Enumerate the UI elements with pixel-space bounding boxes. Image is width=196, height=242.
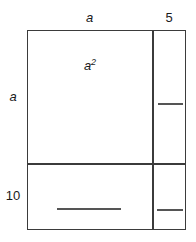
dimension-label-top-a: a: [27, 11, 152, 24]
answer-line-top-right[interactable]: [158, 103, 183, 105]
area-model-diagram: a 5 a 10 a2: [0, 0, 196, 242]
answer-line-bottom-right[interactable]: [157, 209, 183, 211]
cell-bottom-right[interactable]: [153, 164, 186, 230]
answer-line-bottom-left[interactable]: [57, 208, 121, 210]
a-squared-exponent: 2: [91, 56, 96, 66]
dimension-label-left-10: 10: [1, 189, 25, 202]
cell-top-left[interactable]: a2: [28, 31, 152, 163]
dimension-label-left-a: a: [2, 90, 24, 103]
cell-bottom-left[interactable]: [28, 164, 152, 230]
cell-top-right[interactable]: [153, 31, 186, 163]
a-squared-label: a2: [84, 59, 96, 72]
dimension-label-top-5: 5: [152, 11, 186, 24]
